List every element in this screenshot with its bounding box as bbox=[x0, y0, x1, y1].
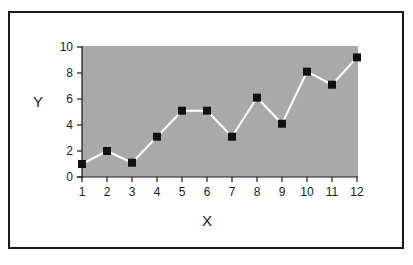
x-tick-label: 8 bbox=[254, 185, 261, 199]
x-tick-label: 7 bbox=[229, 185, 236, 199]
plot-area bbox=[82, 46, 358, 177]
data-point-marker bbox=[303, 68, 311, 76]
data-point-marker bbox=[128, 159, 136, 167]
data-point-marker bbox=[78, 160, 86, 168]
data-point-marker bbox=[178, 107, 186, 115]
y-tick-label: 0 bbox=[66, 170, 73, 184]
y-axis-title: Y bbox=[33, 93, 43, 110]
x-tick-label: 12 bbox=[350, 185, 364, 199]
x-tick-label: 1 bbox=[79, 185, 86, 199]
y-tick-label: 6 bbox=[66, 92, 73, 106]
line-chart: 0246810 123456789101112 Y X bbox=[0, 0, 413, 265]
data-point-marker bbox=[203, 107, 211, 115]
x-tick-label: 6 bbox=[204, 185, 211, 199]
x-tick-label: 5 bbox=[179, 185, 186, 199]
x-tick-label: 2 bbox=[104, 185, 111, 199]
y-tick-label: 8 bbox=[66, 66, 73, 80]
x-axis-title: X bbox=[202, 212, 212, 229]
y-tick-label: 4 bbox=[66, 118, 73, 132]
data-point-marker bbox=[353, 53, 361, 61]
data-point-marker bbox=[328, 81, 336, 89]
y-tick-label: 10 bbox=[60, 40, 74, 54]
data-point-marker bbox=[278, 120, 286, 128]
data-point-marker bbox=[253, 94, 261, 102]
x-tick-label: 11 bbox=[326, 185, 339, 199]
x-tick-label: 4 bbox=[154, 185, 161, 199]
data-point-marker bbox=[153, 133, 161, 141]
x-tick-label: 9 bbox=[279, 185, 286, 199]
x-tick-label: 10 bbox=[300, 185, 314, 199]
x-tick-label: 3 bbox=[129, 185, 136, 199]
data-point-marker bbox=[228, 133, 236, 141]
y-tick-label: 2 bbox=[66, 144, 73, 158]
data-point-marker bbox=[103, 147, 111, 155]
x-axis: 123456789101112 bbox=[77, 177, 364, 199]
